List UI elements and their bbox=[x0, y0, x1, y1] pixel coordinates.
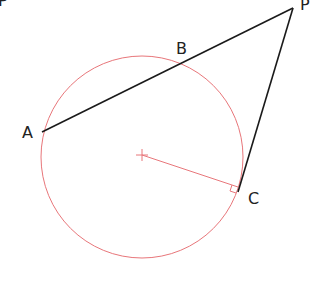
label-p: P bbox=[300, 0, 310, 14]
tangent-pc bbox=[238, 8, 293, 192]
secant-pa bbox=[42, 8, 293, 132]
label-c: C bbox=[248, 189, 259, 208]
label-a: A bbox=[22, 123, 33, 142]
label-p-topleft: P bbox=[0, 0, 8, 10]
geometry-diagram: P P B A C bbox=[0, 0, 321, 284]
center-mark-icon bbox=[136, 149, 148, 161]
radius-oc bbox=[142, 155, 238, 187]
label-b: B bbox=[176, 39, 187, 58]
